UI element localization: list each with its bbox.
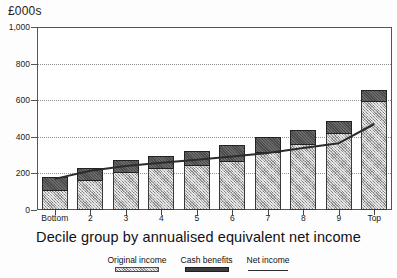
bar-segment-cash-benefits bbox=[113, 160, 139, 172]
bar-segment-original-income bbox=[77, 177, 103, 210]
x-tick-label-6: 6 bbox=[230, 213, 235, 223]
original-income-swatch bbox=[115, 267, 159, 272]
y-tick-label: 800 bbox=[0, 59, 30, 69]
bar-segment-cash-benefits bbox=[219, 145, 245, 161]
y-tick-mark bbox=[31, 137, 37, 138]
gridline bbox=[38, 100, 391, 101]
bar-segment-cash-benefits bbox=[361, 90, 387, 102]
y-tick-mark bbox=[31, 64, 37, 65]
x-tick-label-8: 8 bbox=[301, 213, 306, 223]
bar-segment-cash-benefits bbox=[326, 121, 352, 134]
bar-segment-original-income bbox=[113, 169, 139, 210]
x-tick-label-top: Top bbox=[367, 213, 381, 223]
bar-bottom bbox=[42, 177, 68, 210]
x-tick-label-9: 9 bbox=[336, 213, 341, 223]
bar-segment-original-income bbox=[219, 158, 245, 210]
bar-segment-cash-benefits bbox=[255, 137, 281, 153]
bar-segment-original-income bbox=[184, 162, 210, 210]
bar-segment-cash-benefits bbox=[148, 156, 174, 169]
x-tick-label-4: 4 bbox=[159, 213, 164, 223]
legend-item-net-income: Net income bbox=[247, 255, 290, 271]
y-tick-label: 600 bbox=[0, 95, 30, 105]
bar-2 bbox=[77, 168, 103, 210]
y-tick-label: 200 bbox=[0, 168, 30, 178]
bar-6 bbox=[219, 145, 245, 210]
legend-label-net-income: Net income bbox=[247, 255, 290, 265]
cash-benefits-swatch bbox=[185, 267, 229, 272]
bar-9 bbox=[326, 121, 352, 210]
bar-segment-original-income bbox=[255, 149, 281, 210]
bar-segment-cash-benefits bbox=[290, 130, 316, 145]
y-axis-unit-label: £000s bbox=[8, 4, 42, 18]
bar-segment-original-income bbox=[361, 98, 387, 210]
y-tick-mark bbox=[31, 27, 37, 28]
chart-legend: Original income Cash benefits Net income bbox=[0, 255, 397, 272]
bar-7 bbox=[255, 137, 281, 210]
bar-3 bbox=[113, 160, 139, 210]
bar-segment-cash-benefits bbox=[184, 151, 210, 167]
x-tick-label-3: 3 bbox=[123, 213, 128, 223]
net-income-line-swatch bbox=[248, 270, 288, 271]
x-tick-label-bottom: Bottom bbox=[41, 213, 68, 223]
y-tick-label: 400 bbox=[0, 132, 30, 142]
x-tick-label-7: 7 bbox=[265, 213, 270, 223]
bar-segment-original-income bbox=[326, 130, 352, 210]
legend-item-cash-benefits: Cash benefits bbox=[181, 255, 233, 272]
legend-label-cash-benefits: Cash benefits bbox=[181, 255, 233, 265]
x-tick-label-5: 5 bbox=[194, 213, 199, 223]
bar-4 bbox=[148, 156, 174, 210]
legend-label-original-income: Original income bbox=[107, 255, 166, 265]
y-tick-mark bbox=[31, 173, 37, 174]
y-tick-mark bbox=[31, 100, 37, 101]
y-tick-label: 1,000 bbox=[0, 22, 30, 32]
bar-segment-original-income bbox=[148, 165, 174, 210]
y-tick-mark bbox=[31, 210, 37, 211]
y-tick-label: 0 bbox=[0, 205, 30, 215]
bar-segment-cash-benefits bbox=[42, 177, 68, 191]
legend-item-original-income: Original income bbox=[107, 255, 166, 272]
bar-8 bbox=[290, 130, 316, 210]
x-axis-title: Decile group by annualised equivalent ne… bbox=[0, 229, 397, 245]
bar-top bbox=[361, 90, 387, 210]
x-tick-label-2: 2 bbox=[88, 213, 93, 223]
bar-segment-original-income bbox=[290, 141, 316, 210]
chart-container: £000s 02004006008001,000 Bottom23456789T… bbox=[0, 0, 397, 278]
bar-segment-cash-benefits bbox=[77, 168, 103, 181]
gridline bbox=[38, 64, 391, 65]
bar-5 bbox=[184, 151, 210, 210]
